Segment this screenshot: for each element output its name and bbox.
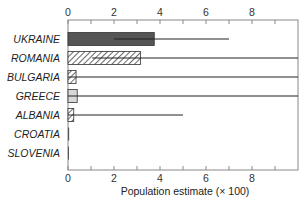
x-axis-label: Population estimate (× 100) [121,185,250,197]
bar [68,147,69,160]
bottom-tick-label: 0 [65,172,71,184]
category-label: GREECE [16,90,61,102]
bottom-tick-label: 6 [203,172,209,184]
category-label: CROATIA [14,128,60,140]
top-tick-label: 0 [65,6,71,18]
category-label: SLOVENIA [7,147,60,159]
category-label: BULGARIA [7,71,60,83]
category-label: ROMANIA [11,52,60,64]
top-tick-label: 6 [203,6,209,18]
bottom-tick-label: 8 [249,172,255,184]
bottom-tick-label: 2 [111,172,117,184]
bar [68,128,69,141]
top-tick-label: 8 [249,6,255,18]
population-bar-chart: 0246802468Population estimate (× 100)UKR… [0,0,308,203]
category-label: UKRAINE [13,33,61,45]
top-tick-label: 2 [111,6,117,18]
category-label: ALBANIA [15,109,60,121]
top-tick-label: 4 [157,6,163,18]
bottom-tick-label: 4 [157,172,163,184]
